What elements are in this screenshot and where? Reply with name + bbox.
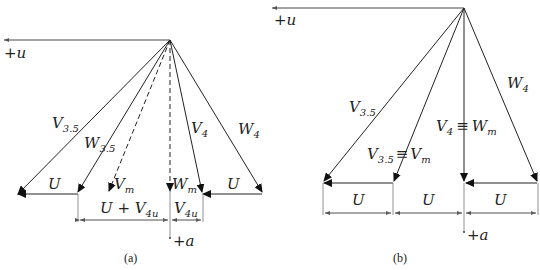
u-axis-label: +u bbox=[274, 11, 296, 29]
label-v4u: V4u bbox=[174, 199, 198, 219]
vector-w4 bbox=[170, 40, 262, 192]
label-u-plus-v4u: U + V4u bbox=[100, 199, 158, 219]
label-v35-equiv-vm: V3.5≡Vm bbox=[367, 145, 431, 165]
label-v35: V3.5 bbox=[349, 98, 376, 118]
label-vm: Vm bbox=[114, 175, 134, 195]
label-v4-equiv-wm: V4≡Wm bbox=[436, 117, 497, 137]
vector-v35 bbox=[18, 40, 170, 194]
vector-w35 bbox=[78, 40, 170, 192]
vector-v4 bbox=[170, 40, 202, 192]
panel-b: +u V3.5 V3.5≡Vm V4≡Wm W4 U U U +a (b) bbox=[272, 8, 538, 265]
label-w35: W3.5 bbox=[84, 134, 115, 154]
label-v4: V4 bbox=[191, 119, 208, 139]
vector-v35 bbox=[324, 8, 464, 181]
a-axis-dot bbox=[169, 237, 171, 239]
label-dim-u-2: U bbox=[422, 191, 436, 209]
vector-vm bbox=[109, 40, 170, 191]
a-axis-label: +a bbox=[467, 226, 489, 244]
label-w4: W4 bbox=[238, 120, 260, 140]
label-w4: W4 bbox=[507, 74, 529, 94]
label-dim-u-1: U bbox=[352, 191, 366, 209]
u-axis-label: +u bbox=[4, 44, 26, 62]
label-u-right: U bbox=[227, 175, 241, 193]
caption-a: (a) bbox=[124, 251, 137, 265]
caption-b: (b) bbox=[393, 251, 407, 265]
label-u-left: U bbox=[48, 175, 62, 193]
velocity-triangles-diagram: +u V3.5 W3.5 Vm Wm V4 W4 U U U + V4u V4u… bbox=[0, 0, 540, 270]
panel-a: +u V3.5 W3.5 Vm Wm V4 W4 U U U + V4u V4u… bbox=[4, 40, 262, 265]
a-axis-dot bbox=[463, 231, 465, 233]
label-wm: Wm bbox=[172, 175, 197, 195]
label-v35: V3.5 bbox=[52, 114, 79, 134]
a-axis-label: +a bbox=[173, 232, 195, 250]
vector-w4 bbox=[464, 8, 537, 181]
label-dim-u-3: U bbox=[494, 191, 508, 209]
